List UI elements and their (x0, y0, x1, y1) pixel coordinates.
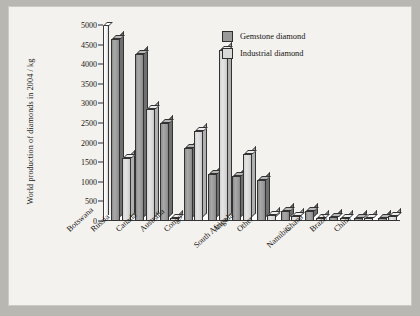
bar-gemstone (257, 180, 266, 221)
bar-group (352, 25, 376, 221)
bar-face (305, 211, 314, 221)
bar-industrial (219, 50, 228, 221)
y-axis-tick-label: 2500 (81, 119, 97, 128)
legend-swatch-gemstone-icon (222, 31, 233, 42)
y-axis-tick-label: 500 (85, 197, 97, 206)
y-axis-title: World production of diamonds in 2004 / k… (26, 32, 35, 232)
bar-face (232, 176, 241, 221)
legend-item-gemstone: Gemstone diamond (222, 31, 352, 42)
bar-gemstone (111, 39, 120, 221)
bar-group (182, 25, 206, 221)
bar-group (376, 25, 400, 221)
bar-group (133, 25, 157, 221)
y-axis-tick-label: 2000 (81, 138, 97, 147)
bar-gemstone (208, 174, 217, 221)
chart-legend: Gemstone diamond Industrial diamond (222, 31, 352, 65)
legend-label-industrial: Industrial diamond (240, 49, 304, 58)
bar-top (389, 212, 402, 216)
bar-face (111, 39, 120, 221)
y-axis-tick-label: 4000 (81, 60, 97, 69)
bar-group (109, 25, 133, 221)
bar-industrial (243, 154, 252, 221)
bar-gemstone (232, 176, 241, 221)
y-axis-tick-label: 4500 (81, 40, 97, 49)
bar-face (219, 50, 228, 221)
legend-swatch-industrial-icon (222, 48, 233, 59)
bar-face (194, 131, 203, 221)
bar-face (281, 211, 290, 221)
y-axis-tick-label: 1500 (81, 158, 97, 167)
bar-face (160, 123, 169, 221)
bar-side (169, 115, 173, 217)
bar-face (243, 154, 252, 221)
y-axis-tick-label: 1000 (81, 177, 97, 186)
bar-gemstone (160, 123, 169, 221)
bar-face (146, 109, 155, 221)
bar-gemstone (135, 54, 144, 221)
y-axis-tick-label: 3000 (81, 99, 97, 108)
bar-face (184, 148, 193, 221)
bar-industrial (146, 109, 155, 221)
bar-group (158, 25, 182, 221)
bar-face (208, 174, 217, 221)
y-axis-tick-label: 5000 (81, 21, 97, 30)
bar-gemstone (305, 211, 314, 221)
bar-gemstone (281, 211, 290, 221)
y-axis-tick-label: 3500 (81, 79, 97, 88)
bar-face (135, 54, 144, 221)
legend-label-gemstone: Gemstone diamond (240, 32, 305, 41)
bar-face (257, 180, 266, 221)
legend-item-industrial: Industrial diamond (222, 48, 352, 59)
bar-industrial (194, 131, 203, 221)
chart-figure: World production of diamonds in 2004 / k… (8, 6, 412, 306)
x-axis-labels: BotswanaRussiaCanadaAustraliaCongoSouth … (63, 221, 408, 307)
bar-gemstone (184, 148, 193, 221)
